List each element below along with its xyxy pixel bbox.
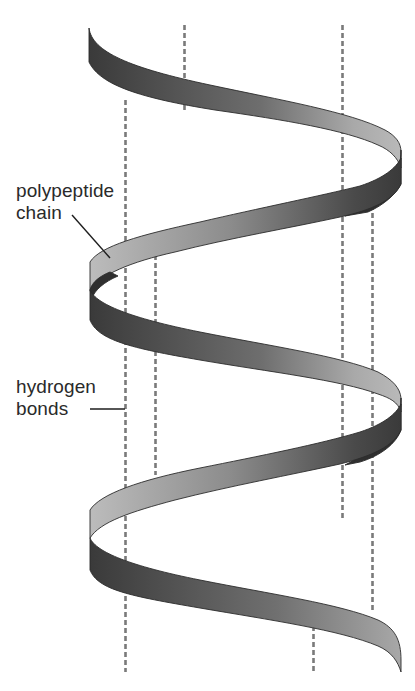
hydrogen-label-line1: hydrogen: [16, 376, 96, 398]
polypeptide-label-line1: polypeptide: [16, 180, 114, 202]
polypeptide-label-line2: chain: [16, 202, 114, 224]
ribbon-segment-5: [90, 538, 401, 672]
ribbon-segment-2: [90, 158, 401, 290]
ribbon-segment-3: [90, 290, 401, 412]
ribbon-segment-4: [90, 404, 401, 538]
alpha-helix-diagram: [0, 0, 415, 691]
hydrogen-bonds-label: hydrogen bonds: [16, 376, 96, 420]
polypeptide-chain-label: polypeptide chain: [16, 180, 114, 224]
hydrogen-label-line2: bonds: [16, 398, 96, 420]
ribbon-segment-1: [89, 28, 401, 168]
polypeptide-ribbon: [89, 28, 401, 672]
